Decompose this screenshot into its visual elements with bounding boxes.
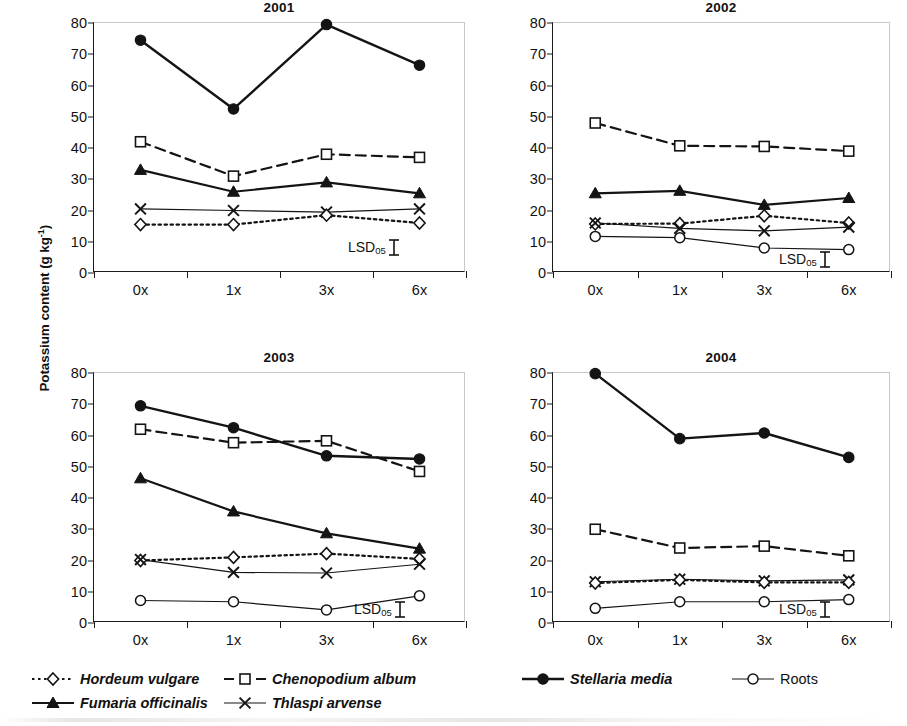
lsd-label: LSD bbox=[779, 251, 806, 267]
x-tick-label-1x: 1x bbox=[672, 283, 687, 298]
data-point-stellaria-media-3x bbox=[759, 428, 769, 438]
data-point-roots-0x bbox=[590, 603, 600, 613]
data-point-roots-3x bbox=[759, 597, 769, 607]
series-line-chenopodium-album bbox=[595, 529, 849, 556]
legend-marker-circle-open-icon bbox=[748, 674, 758, 684]
lsd-label: LSD bbox=[779, 601, 806, 617]
legend-key-diamond-open-icon bbox=[30, 670, 76, 688]
legend-item-roots[interactable]: Roots bbox=[730, 670, 818, 688]
legend-item-stellaria-media[interactable]: Stellaria media bbox=[520, 670, 672, 688]
x-tick-label-6x: 6x bbox=[412, 633, 427, 648]
data-point-hordeum-vulgare-6x bbox=[414, 217, 425, 229]
data-point-stellaria-media-1x bbox=[228, 422, 238, 432]
lsd-annotation-2002: LSD05 bbox=[779, 249, 832, 271]
lsd-subscript: 05 bbox=[375, 245, 386, 256]
data-point-chenopodium-album-0x bbox=[136, 137, 146, 147]
series-line-hordeum-vulgare bbox=[141, 554, 420, 561]
lsd-subscript: 05 bbox=[806, 607, 817, 618]
data-point-hordeum-vulgare-3x bbox=[321, 548, 332, 560]
legend-label: Fumaria officinalis bbox=[80, 695, 208, 711]
legend-label: Chenopodium album bbox=[272, 671, 416, 687]
data-point-roots-0x bbox=[590, 231, 600, 241]
data-point-chenopodium-album-1x bbox=[675, 141, 685, 151]
data-point-chenopodium-album-3x bbox=[322, 436, 332, 446]
series-line-hordeum-vulgare bbox=[141, 215, 420, 224]
x-tick-mark bbox=[466, 271, 467, 278]
data-point-roots-3x bbox=[759, 243, 769, 253]
legend-key-circle-filled-icon bbox=[520, 670, 566, 688]
data-point-stellaria-media-3x bbox=[321, 19, 331, 29]
data-point-stellaria-media-6x bbox=[414, 454, 424, 464]
x-tick-label-6x: 6x bbox=[412, 283, 427, 298]
lsd-subscript: 05 bbox=[381, 607, 392, 618]
data-point-fumaria-officinalis-0x bbox=[135, 164, 147, 175]
series-line-thlaspi-arvense bbox=[141, 560, 420, 573]
data-point-hordeum-vulgare-3x bbox=[759, 210, 770, 222]
data-point-roots-1x bbox=[229, 597, 239, 607]
legend-label: Thlaspi arvense bbox=[272, 695, 382, 711]
data-point-chenopodium-album-6x bbox=[844, 551, 854, 561]
lsd-error-bar-2003 bbox=[393, 599, 407, 621]
series-layer-2003 bbox=[94, 373, 466, 623]
plot-area-2001: 807060504030201000x1x3x6xLSD05 bbox=[93, 22, 465, 272]
data-point-roots-1x bbox=[675, 233, 685, 243]
data-point-stellaria-media-1x bbox=[228, 104, 238, 114]
panel-2004: 2004807060504030201000x1x3x6xLSD05 bbox=[492, 350, 890, 660]
x-tick-label-1x: 1x bbox=[672, 633, 687, 648]
legend-item-hordeum-vulgare[interactable]: Hordeum vulgare bbox=[30, 670, 199, 688]
x-tick-label-3x: 3x bbox=[757, 633, 772, 648]
x-tick-label-6x: 6x bbox=[841, 283, 856, 298]
series-layer-2002 bbox=[553, 23, 891, 273]
x-tick-label-3x: 3x bbox=[319, 283, 334, 298]
data-point-roots-6x bbox=[415, 591, 425, 601]
series-line-chenopodium-album bbox=[595, 123, 849, 151]
data-point-stellaria-media-1x bbox=[675, 433, 685, 443]
data-point-chenopodium-album-1x bbox=[229, 438, 239, 448]
x-tick-label-3x: 3x bbox=[319, 633, 334, 648]
data-point-stellaria-media-0x bbox=[590, 368, 600, 378]
legend-item-fumaria-officinalis[interactable]: Fumaria officinalis bbox=[30, 694, 208, 712]
legend-key-circle-open-icon bbox=[730, 670, 776, 688]
data-point-hordeum-vulgare-3x bbox=[321, 209, 332, 221]
legend-item-chenopodium-album[interactable]: Chenopodium album bbox=[222, 670, 416, 688]
series-line-stellaria-media bbox=[141, 25, 420, 109]
data-point-stellaria-media-0x bbox=[135, 401, 145, 411]
x-tick-label-0x: 0x bbox=[133, 633, 148, 648]
series-layer-2004 bbox=[553, 373, 891, 623]
panel-title-2004: 2004 bbox=[552, 350, 890, 365]
data-point-roots-0x bbox=[136, 596, 146, 606]
series-line-stellaria-media bbox=[595, 374, 849, 458]
panel-2003: 2003807060504030201000x1x3x6xLSD05 bbox=[33, 350, 465, 660]
data-point-chenopodium-album-1x bbox=[675, 543, 685, 553]
x-tick-label-0x: 0x bbox=[588, 283, 603, 298]
legend-item-thlaspi-arvense[interactable]: Thlaspi arvense bbox=[222, 694, 382, 712]
series-line-stellaria-media bbox=[141, 406, 420, 459]
legend-marker-circle-filled-icon bbox=[538, 674, 548, 684]
legend-label: Hordeum vulgare bbox=[80, 671, 199, 687]
legend-label: Roots bbox=[780, 671, 818, 687]
figure-potassium-content: Potassium content (g kg-1) 2001807060504… bbox=[0, 0, 907, 726]
panel-2002: 2002807060504030201000x1x3x6xLSD05 bbox=[492, 0, 890, 310]
series-line-fumaria-officinalis bbox=[595, 191, 849, 205]
series-line-chenopodium-album bbox=[141, 142, 420, 176]
data-point-stellaria-media-3x bbox=[321, 451, 331, 461]
x-tick-mark bbox=[891, 271, 892, 278]
legend-label: Stellaria media bbox=[570, 671, 672, 687]
lsd-label: LSD bbox=[348, 239, 375, 255]
lsd-annotation-2004: LSD05 bbox=[779, 599, 832, 621]
data-point-hordeum-vulgare-0x bbox=[135, 219, 146, 231]
data-point-roots-6x bbox=[844, 595, 854, 605]
x-tick-mark bbox=[466, 621, 467, 628]
legend-key-cross-icon bbox=[222, 694, 268, 712]
data-point-stellaria-media-6x bbox=[414, 60, 424, 70]
data-point-stellaria-media-6x bbox=[844, 452, 854, 462]
data-point-stellaria-media-0x bbox=[135, 35, 145, 45]
panel-title-2002: 2002 bbox=[552, 0, 890, 15]
series-line-roots bbox=[595, 236, 849, 249]
plot-area-2004: 807060504030201000x1x3x6xLSD05 bbox=[552, 372, 890, 622]
x-tick-label-1x: 1x bbox=[226, 633, 241, 648]
data-point-chenopodium-album-3x bbox=[759, 541, 769, 551]
panel-title-2001: 2001 bbox=[93, 0, 465, 15]
lsd-error-bar-2004 bbox=[818, 599, 832, 621]
data-point-roots-1x bbox=[675, 597, 685, 607]
